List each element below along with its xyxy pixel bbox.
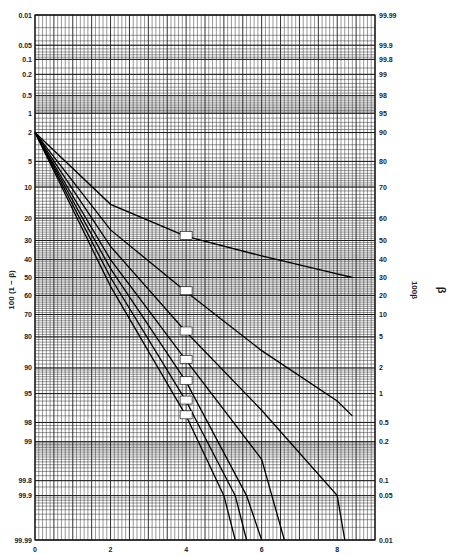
curve-label-box — [180, 396, 192, 404]
right-tick-label: 10 — [379, 311, 387, 318]
curve-label-box — [180, 231, 192, 239]
right-tick-label: 95 — [379, 110, 387, 117]
curve-label-box — [180, 377, 192, 385]
left-tick-label: 99 — [24, 438, 32, 445]
left-tick-label: 10 — [24, 184, 32, 191]
left-tick-label: 0.1 — [22, 56, 32, 63]
left-tick-label: 50 — [24, 274, 32, 281]
right-tick-label: 0.1 — [379, 477, 389, 484]
right-tick-label: 0.2 — [379, 438, 389, 445]
right-tick-label: 70 — [379, 184, 387, 191]
right-tick-label: 2 — [379, 364, 383, 371]
left-tick-label: 80 — [24, 333, 32, 340]
right-tick-label: 0.5 — [379, 419, 389, 426]
right-tick-label: 40 — [379, 256, 387, 263]
right-tick-label: 60 — [379, 215, 387, 222]
right-tick-label: 99.99 — [379, 12, 397, 19]
right-tick-label: 0.01 — [379, 537, 393, 544]
left-tick-label: 2 — [28, 129, 32, 136]
left-tick-label: 98 — [24, 419, 32, 426]
x-tick-label: 8 — [335, 546, 339, 553]
left-tick-label: 60 — [24, 292, 32, 299]
right-tick-label: 99 — [379, 71, 387, 78]
left-tick-label: 99.99 — [14, 537, 32, 544]
right-axis-title: 100β — [410, 281, 419, 299]
x-tick-label: 0 — [33, 546, 37, 553]
x-tick-label: 4 — [184, 546, 188, 553]
left-tick-label: 40 — [24, 256, 32, 263]
left-axis-title: 100 (1 − β) — [7, 270, 16, 310]
curve-label-box — [180, 411, 192, 419]
left-tick-label: 99.9 — [18, 492, 32, 499]
left-tick-label: 70 — [24, 311, 32, 318]
left-tick-label: 5 — [28, 158, 32, 165]
right-tick-label: 99.8 — [379, 56, 393, 63]
right-tick-label: 1 — [379, 390, 383, 397]
right-tick-label: 98 — [379, 92, 387, 99]
right-tick-label: 20 — [379, 292, 387, 299]
left-tick-label: 95 — [24, 390, 32, 397]
curve-label-box — [180, 327, 192, 335]
left-tick-label: 0.5 — [22, 92, 32, 99]
x-tick-label: 6 — [260, 546, 264, 553]
curve-label-box — [180, 287, 192, 295]
left-tick-label: 1 — [28, 110, 32, 117]
oc-chart: 0.010.050.10.20.512510203040506070809095… — [0, 0, 450, 555]
right-tick-label: 99.9 — [379, 42, 393, 49]
left-tick-label: 90 — [24, 364, 32, 371]
grid — [35, 15, 375, 540]
axis-labels: 0.010.050.10.20.512510203040506070809095… — [14, 12, 396, 554]
right-beta-symbol: β — [436, 287, 448, 294]
x-tick-label: 2 — [109, 546, 113, 553]
curve-label-box — [180, 355, 192, 363]
right-tick-label: 5 — [379, 333, 383, 340]
right-tick-label: 90 — [379, 129, 387, 136]
left-tick-label: 0.01 — [18, 12, 32, 19]
right-tick-label: 50 — [379, 237, 387, 244]
right-tick-label: 80 — [379, 158, 387, 165]
left-tick-label: 20 — [24, 215, 32, 222]
left-tick-label: 99.8 — [18, 477, 32, 484]
left-tick-label: 0.2 — [22, 71, 32, 78]
right-tick-label: 30 — [379, 274, 387, 281]
left-tick-label: 0.05 — [18, 42, 32, 49]
left-tick-label: 30 — [24, 237, 32, 244]
right-tick-label: 0.05 — [379, 492, 393, 499]
